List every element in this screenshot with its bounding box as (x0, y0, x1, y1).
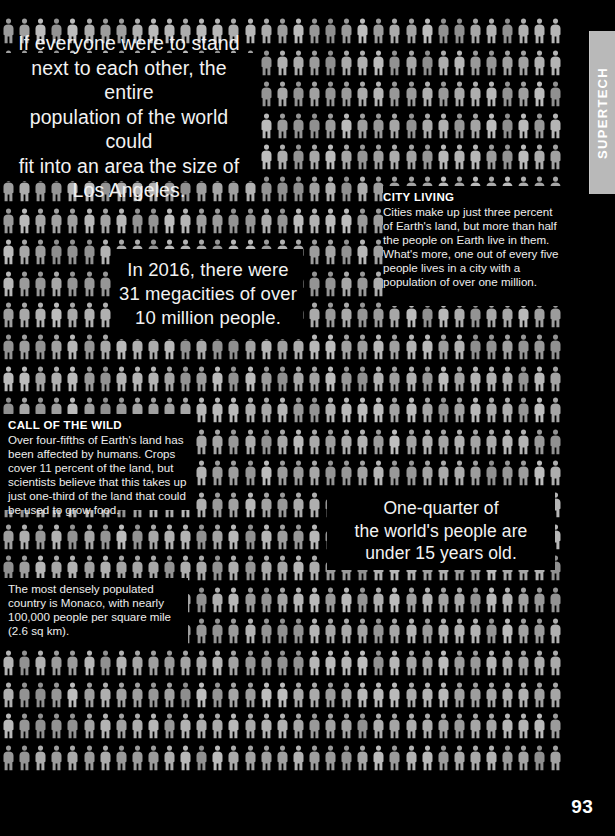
person-pictogram-icon (227, 745, 240, 771)
person-pictogram-icon (340, 81, 353, 107)
person-pictogram-icon (388, 429, 401, 455)
person-pictogram-icon (485, 429, 498, 455)
city-living-body: Cities make up just three percent of Ear… (383, 205, 565, 289)
person-pictogram-icon (485, 587, 498, 613)
person-pictogram-icon (453, 50, 466, 76)
person-pictogram-icon (437, 429, 450, 455)
person-pictogram-icon (276, 18, 289, 44)
person-pictogram-icon (292, 492, 305, 518)
person-pictogram-icon (292, 397, 305, 423)
person-pictogram-icon (372, 682, 385, 708)
person-pictogram-icon (485, 650, 498, 676)
person-pictogram-icon (356, 144, 369, 170)
person-pictogram-icon (211, 713, 224, 739)
person-pictogram-icon (453, 650, 466, 676)
page-number: 93 (571, 796, 593, 818)
person-pictogram-icon (179, 208, 192, 234)
person-pictogram-icon (260, 524, 273, 550)
callout-los-angeles-lines: If everyone were to standnext to each ot… (7, 31, 251, 203)
person-pictogram-icon (453, 334, 466, 360)
person-pictogram-icon (244, 650, 257, 676)
person-pictogram-icon (83, 745, 96, 771)
person-pictogram-icon (276, 618, 289, 644)
person-pictogram-icon (372, 81, 385, 107)
person-pictogram-icon (308, 271, 321, 297)
person-pictogram-icon (292, 81, 305, 107)
person-pictogram-icon (324, 113, 337, 139)
person-pictogram-icon (2, 524, 15, 550)
person-pictogram-icon (485, 618, 498, 644)
person-pictogram-icon (533, 745, 546, 771)
person-pictogram-icon (501, 587, 514, 613)
person-pictogram-icon (421, 302, 434, 328)
person-pictogram-icon (356, 460, 369, 486)
person-pictogram-icon (549, 366, 562, 392)
person-pictogram-icon (469, 745, 482, 771)
person-pictogram-icon (276, 713, 289, 739)
person-pictogram-icon (163, 366, 176, 392)
person-pictogram-icon (340, 713, 353, 739)
person-pictogram-icon (211, 208, 224, 234)
person-pictogram-icon (405, 460, 418, 486)
person-pictogram-icon (50, 524, 63, 550)
person-pictogram-icon (405, 81, 418, 107)
person-pictogram-icon (34, 745, 47, 771)
person-pictogram-icon (131, 713, 144, 739)
person-pictogram-icon (179, 650, 192, 676)
person-pictogram-icon (2, 682, 15, 708)
person-pictogram-icon (356, 618, 369, 644)
person-pictogram-icon (227, 713, 240, 739)
person-pictogram-icon (533, 682, 546, 708)
person-pictogram-icon (372, 50, 385, 76)
person-pictogram-icon (211, 650, 224, 676)
monaco-body: The most densely populated country is Mo… (8, 582, 180, 638)
person-pictogram-icon (372, 397, 385, 423)
person-pictogram-icon (292, 366, 305, 392)
person-pictogram-icon (405, 113, 418, 139)
person-pictogram-icon (372, 460, 385, 486)
person-pictogram-icon (501, 50, 514, 76)
person-pictogram-icon (292, 176, 305, 202)
person-pictogram-icon (421, 18, 434, 44)
person-pictogram-icon (211, 492, 224, 518)
person-pictogram-icon (50, 302, 63, 328)
callout-los-angeles-text: If everyone were to standnext to each ot… (7, 31, 251, 203)
person-pictogram-icon (308, 587, 321, 613)
person-pictogram-icon (324, 334, 337, 360)
person-pictogram-icon (292, 745, 305, 771)
section-tab-supertech[interactable]: SUPERTECH (589, 31, 615, 194)
person-pictogram-icon (276, 555, 289, 581)
person-pictogram-icon (501, 397, 514, 423)
text-block-call-of-the-wild: CALL OF THE WILD Over four-fifths of Ear… (0, 414, 196, 510)
person-pictogram-icon (340, 682, 353, 708)
person-pictogram-icon (163, 713, 176, 739)
person-pictogram-icon (549, 81, 562, 107)
person-pictogram-icon (308, 650, 321, 676)
person-pictogram-icon (34, 682, 47, 708)
person-pictogram-icon (517, 144, 530, 170)
person-pictogram-icon (147, 524, 160, 550)
person-pictogram-icon (517, 18, 530, 44)
person-pictogram-icon (340, 18, 353, 44)
person-pictogram-icon (83, 271, 96, 297)
callout-line: under 15 years old. (328, 542, 554, 565)
person-pictogram-icon (324, 745, 337, 771)
person-pictogram-icon (421, 745, 434, 771)
person-pictogram-icon (453, 713, 466, 739)
person-pictogram-icon (260, 682, 273, 708)
person-pictogram-icon (437, 745, 450, 771)
person-pictogram-icon (260, 144, 273, 170)
person-pictogram-icon (260, 397, 273, 423)
person-pictogram-icon (211, 397, 224, 423)
person-pictogram-icon (227, 587, 240, 613)
person-pictogram-icon (485, 81, 498, 107)
person-pictogram-icon (421, 366, 434, 392)
person-pictogram-icon (292, 50, 305, 76)
person-pictogram-icon (549, 18, 562, 44)
person-pictogram-icon (50, 682, 63, 708)
person-pictogram-icon (99, 366, 112, 392)
person-pictogram-icon (308, 176, 321, 202)
person-pictogram-icon (356, 50, 369, 76)
person-pictogram-icon (211, 682, 224, 708)
person-pictogram-icon (517, 587, 530, 613)
